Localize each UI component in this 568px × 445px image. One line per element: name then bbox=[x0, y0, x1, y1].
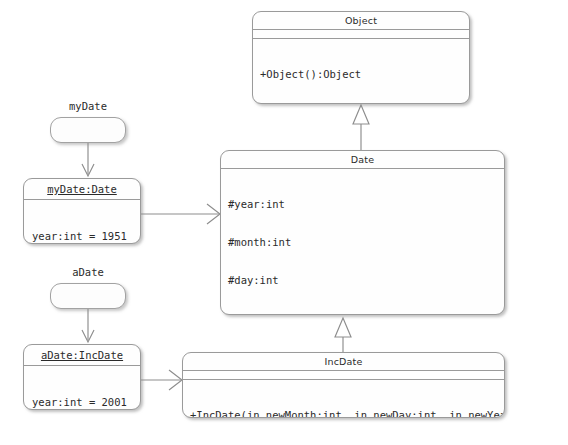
generalization-incdate-to-date bbox=[335, 318, 351, 352]
class-name-date: Date bbox=[221, 151, 504, 168]
attributes-compartment-date: #year:int #month:int #day:int +MINYEAR:i… bbox=[221, 168, 504, 315]
object-box-adate[interactable]: aDate:IncDate year:int = 2001 month:int … bbox=[23, 344, 141, 410]
figure-caption bbox=[0, 436, 568, 445]
methods-compartment-object: +Object():Object #clone():Object +equals… bbox=[253, 38, 469, 104]
reference-box-mydate[interactable] bbox=[50, 117, 126, 143]
attribute-item: #day:int bbox=[228, 274, 497, 287]
object-box-mydate[interactable]: myDate:Date year:int = 1951 month:int = … bbox=[23, 178, 141, 244]
object-attribute-item: year:int = 2001 bbox=[32, 396, 132, 409]
attribute-item: #year:int bbox=[228, 198, 497, 211]
object-attributes-mydate: year:int = 1951 month:int = 6 day:int = … bbox=[24, 199, 140, 244]
attributes-compartment-incdate bbox=[183, 370, 504, 379]
method-item: +IncDate(in newMonth:int, in newDay:int,… bbox=[190, 409, 497, 418]
instanceof-mydate-to-date bbox=[141, 204, 220, 224]
class-name-incdate: IncDate bbox=[183, 353, 504, 370]
variable-label-mydate: myDate bbox=[48, 100, 128, 112]
class-box-object[interactable]: Object +Object():Object #clone():Object … bbox=[252, 11, 470, 104]
generalization-date-to-object bbox=[353, 105, 369, 150]
variable-label-adate: aDate bbox=[48, 266, 128, 278]
diagram-canvas: Object +Object():Object #clone():Object … bbox=[0, 0, 568, 445]
object-title-mydate: myDate:Date bbox=[24, 179, 140, 199]
class-name-object: Object bbox=[253, 12, 469, 29]
attribute-item-static: +MINYEAR:int = 1583 bbox=[228, 312, 497, 315]
methods-compartment-incdate: +IncDate(in newMonth:int, in newDay:int,… bbox=[183, 379, 504, 418]
object-attribute-item: year:int = 1951 bbox=[32, 230, 132, 243]
class-box-incdate[interactable]: IncDate +IncDate(in newMonth:int, in new… bbox=[182, 352, 505, 418]
method-item: +Object():Object bbox=[260, 68, 462, 81]
attributes-compartment-object bbox=[253, 29, 469, 38]
attribute-item: #month:int bbox=[228, 236, 497, 249]
instanceof-adate-to-incdate bbox=[141, 370, 182, 390]
reference-box-adate[interactable] bbox=[50, 283, 126, 309]
class-box-date[interactable]: Date #year:int #month:int #day:int +MINY… bbox=[220, 150, 505, 315]
object-attributes-adate: year:int = 2001 month:int = 1 day:int = … bbox=[24, 365, 140, 410]
object-title-adate: aDate:IncDate bbox=[24, 345, 140, 365]
